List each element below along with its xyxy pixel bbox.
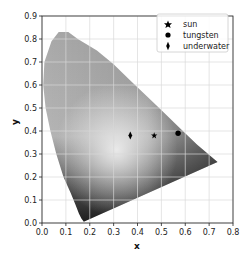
- y-tick-label: 0.6: [24, 81, 37, 90]
- circle-marker-icon: [175, 131, 180, 136]
- chromaticity-chart: 0.00.10.20.30.40.50.60.70.8 0.00.10.20.3…: [0, 0, 250, 253]
- x-tick-label: 0.8: [227, 228, 240, 237]
- legend-label-sun: sun: [183, 20, 197, 29]
- x-tick-label: 0.1: [60, 228, 73, 237]
- y-tick-label: 0.2: [24, 173, 37, 182]
- y-tick-label: 0.9: [24, 12, 37, 21]
- gamut-highlight: [43, 32, 217, 222]
- x-tick-label: 0.3: [107, 228, 120, 237]
- y-tick-label: 0.8: [24, 35, 37, 44]
- y-tick-label: 0.3: [24, 150, 37, 159]
- y-axis-ticks: 0.00.10.20.30.40.50.60.70.80.9: [24, 12, 42, 228]
- y-axis-label: y: [10, 119, 20, 125]
- legend-label-tungsten: tungsten: [183, 31, 219, 40]
- spectral-locus-region: [43, 32, 217, 222]
- x-axis-ticks: 0.00.10.20.30.40.50.60.70.8: [36, 223, 240, 237]
- x-tick-label: 0.5: [155, 228, 168, 237]
- y-tick-label: 0.5: [24, 104, 37, 113]
- legend-label-underwater: underwater: [183, 42, 230, 51]
- x-axis-label: x: [134, 241, 140, 251]
- y-tick-label: 0.4: [24, 127, 37, 136]
- legend: sun tungsten underwater: [157, 14, 230, 52]
- y-tick-label: 0.1: [24, 196, 37, 205]
- x-tick-label: 0.7: [203, 228, 216, 237]
- x-tick-label: 0.0: [36, 228, 49, 237]
- y-tick-label: 0.7: [24, 58, 37, 67]
- y-tick-label: 0.0: [24, 219, 37, 228]
- x-tick-label: 0.6: [179, 228, 192, 237]
- x-tick-label: 0.4: [131, 228, 144, 237]
- x-tick-label: 0.2: [83, 228, 96, 237]
- circle-marker-icon: [165, 32, 170, 37]
